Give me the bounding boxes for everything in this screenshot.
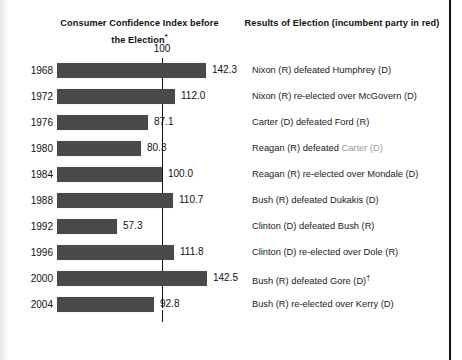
row-bar xyxy=(57,167,162,182)
row-bar xyxy=(57,219,117,234)
chart-row: 1996111.8Clinton (D) re-elected over Dol… xyxy=(0,242,462,268)
chart-row: 198080.3Reagan (R) defeated Carter (D) xyxy=(0,138,462,164)
row-bar-wrapper xyxy=(57,141,141,156)
row-year-label: 1996 xyxy=(0,247,53,258)
row-election-result: Clinton (D) defeated Bush (R) xyxy=(252,220,448,232)
row-bar xyxy=(57,297,154,312)
chart-row: 200492.8Bush (R) re-elected over Kerry (… xyxy=(0,294,462,320)
row-bar-value: 80.3 xyxy=(147,142,166,153)
row-bar-wrapper xyxy=(57,297,154,312)
row-year-label: 1984 xyxy=(0,169,53,180)
row-bar-wrapper xyxy=(57,89,175,104)
row-bar-wrapper xyxy=(57,271,207,286)
chart-row: 197687.1Carter (D) defeated Ford (R) xyxy=(0,112,462,138)
row-year-label: 1972 xyxy=(0,91,53,102)
row-bar-wrapper xyxy=(57,193,173,208)
left-column-header-asterisk: * xyxy=(165,32,168,41)
row-year-label: 1980 xyxy=(0,143,53,154)
row-election-result: Carter (D) defeated Ford (R) xyxy=(252,116,448,128)
row-election-result: Bush (R) re-elected over Kerry (D) xyxy=(252,298,448,310)
chart-rows: 1968142.3Nixon (R) defeated Humphrey (D)… xyxy=(0,60,462,320)
result-text: Bush (R) defeated Gore (D) xyxy=(252,276,366,286)
result-text: Nixon (R) re-elected over McGovern (D) xyxy=(252,91,417,101)
row-election-result: Reagan (R) re-elected over Mondale (D) xyxy=(252,168,448,180)
row-election-result: Reagan (R) defeated Carter (D) xyxy=(252,142,448,154)
row-year-label: 2000 xyxy=(0,273,53,284)
row-bar-wrapper xyxy=(57,63,206,78)
row-bar xyxy=(57,271,207,286)
row-election-result: Bush (R) defeated Gore (D)† xyxy=(252,272,448,287)
chart-row: 1984100.0Reagan (R) re-elected over Mond… xyxy=(0,164,462,190)
chart-row: 1988110.7Bush (R) defeated Dukakis (D) xyxy=(0,190,462,216)
result-text: Bush (R) re-elected over Kerry (D) xyxy=(252,299,394,309)
row-bar-wrapper xyxy=(57,219,117,234)
result-incumbent-text: Carter (D) xyxy=(341,143,382,153)
row-election-result: Bush (R) defeated Dukakis (D) xyxy=(252,194,448,206)
row-bar xyxy=(57,141,141,156)
row-election-result: Nixon (R) defeated Humphrey (D) xyxy=(252,64,448,76)
row-bar-wrapper xyxy=(57,167,162,182)
row-bar-value: 92.8 xyxy=(160,298,179,309)
row-bar-value: 111.8 xyxy=(180,246,204,257)
row-bar-value: 87.1 xyxy=(154,116,173,127)
row-bar-value: 142.5 xyxy=(213,272,238,283)
row-bar-value: 100.0 xyxy=(168,168,193,179)
row-bar-value: 110.7 xyxy=(179,194,203,205)
row-election-result: Nixon (R) re-elected over McGovern (D) xyxy=(252,90,448,102)
right-column-header: Results of Election (incumbent party in … xyxy=(238,17,446,30)
row-bar xyxy=(57,63,206,78)
row-bar-wrapper xyxy=(57,245,174,260)
chart-row: 199257.3Clinton (D) defeated Bush (R) xyxy=(0,216,462,242)
result-text: Clinton (D) re-elected over Dole (R) xyxy=(252,247,398,257)
footnote-dagger-marker: † xyxy=(366,273,370,282)
row-year-label: 1976 xyxy=(0,117,53,128)
chart-row: 1972112.0Nixon (R) re-elected over McGov… xyxy=(0,86,462,112)
row-year-label: 1992 xyxy=(0,221,53,232)
row-bar-value: 142.3 xyxy=(212,64,237,75)
row-year-label: 2004 xyxy=(0,299,53,310)
chart-page: Consumer Confidence Index before the Ele… xyxy=(0,0,462,360)
result-text: Reagan (R) defeated xyxy=(252,143,341,153)
result-text: Bush (R) defeated Dukakis (D) xyxy=(252,195,379,205)
row-year-label: 1988 xyxy=(0,195,53,206)
row-bar-wrapper xyxy=(57,115,148,130)
chart-row: 1968142.3Nixon (R) defeated Humphrey (D) xyxy=(0,60,462,86)
reference-line-label: 100 xyxy=(133,43,191,54)
row-bar xyxy=(57,193,173,208)
row-bar-value: 57.3 xyxy=(123,220,142,231)
row-year-label: 1968 xyxy=(0,65,53,76)
result-text: Nixon (R) defeated Humphrey (D) xyxy=(252,65,391,75)
row-election-result: Clinton (D) re-elected over Dole (R) xyxy=(252,246,448,258)
result-text: Reagan (R) re-elected over Mondale (D) xyxy=(252,169,418,179)
result-text: Clinton (D) defeated Bush (R) xyxy=(252,221,374,231)
chart-row: 2000142.5Bush (R) defeated Gore (D)† xyxy=(0,268,462,294)
row-bar xyxy=(57,115,148,130)
left-column-header-text: Consumer Confidence Index before the Ele… xyxy=(60,18,218,45)
row-bar xyxy=(57,89,175,104)
result-text: Carter (D) defeated Ford (R) xyxy=(252,117,369,127)
row-bar-value: 112.0 xyxy=(181,90,205,101)
row-bar xyxy=(57,245,174,260)
